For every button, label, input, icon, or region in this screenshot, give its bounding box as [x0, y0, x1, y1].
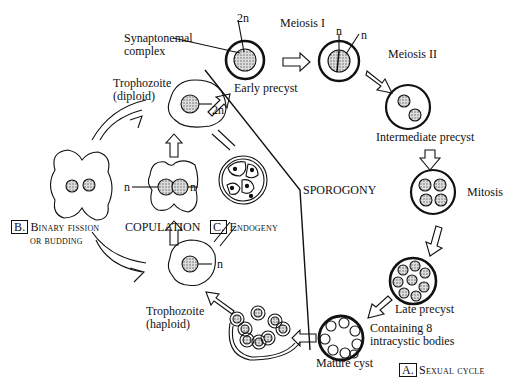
label-intracystic-bodies: intracystic bodies [370, 335, 454, 348]
section-b-name-2: or budding [30, 234, 83, 247]
label-early-precyst: Early precyst [234, 82, 298, 95]
label-troph-diploid-2: (diploid) [113, 90, 155, 103]
arrow-meiosis1 [283, 53, 310, 71]
label-late-precyst: Late precyst [395, 303, 454, 316]
section-a-letter: A. [399, 363, 417, 377]
label-mitosis: Mitosis [467, 186, 503, 199]
label-n-a: n [336, 25, 342, 38]
arrow-meiosis2 [366, 71, 392, 93]
label-copulation: COPULATION [125, 221, 200, 234]
label-2n-troph: 2n [212, 104, 224, 117]
label-n-haploid: n [217, 258, 223, 271]
meiosis1-cyst [319, 34, 359, 81]
section-a-name: Sexual cycle [419, 363, 484, 377]
section-c-endogeny: C.Endogeny [210, 220, 278, 234]
label-mature-cyst: Mature cyst [316, 357, 373, 370]
section-a-sexual-cycle: A.Sexual cycle [399, 363, 484, 377]
section-c-letter: C. [210, 220, 227, 234]
released-intracystic-bodies [229, 306, 300, 360]
late-precyst-cyst [390, 258, 436, 304]
diagram-artwork [0, 0, 517, 385]
section-b-binary-fission: B.Binary fission [11, 220, 99, 234]
haploid-trophozoite-cell [168, 240, 215, 286]
mature-cyst [319, 316, 363, 360]
label-intermediate-precyst: Intermediate precyst [376, 131, 474, 144]
label-meiosis-1: Meiosis I [280, 17, 325, 30]
label-n-left: n [124, 181, 130, 194]
copulation-cell [132, 161, 198, 212]
section-b-letter: B. [11, 220, 28, 234]
section-b-name: Binary fission [30, 220, 99, 234]
arrow-to-mature-cyst [368, 296, 392, 318]
arrow-to-haploid-trophozoite [206, 292, 234, 314]
arrow-diploid-endogeny [212, 130, 235, 150]
intermediate-precyst-cyst [386, 85, 430, 129]
arrow-to-mitosis [420, 150, 440, 170]
label-meiosis-2: Meiosis II [388, 48, 437, 61]
binary-fission-cell [51, 150, 113, 220]
label-n-b: n [361, 29, 367, 42]
arrow-copulation-to-diploid [166, 134, 182, 157]
label-2n-early: 2n [237, 12, 249, 25]
mitosis-cyst [411, 170, 455, 214]
label-n-right: n [190, 181, 196, 194]
label-troph-haploid-2: (haploid) [146, 318, 190, 331]
arrow-to-late-precyst [426, 226, 442, 256]
endogeny-cyst [219, 156, 267, 204]
label-synaptonemal-2: complex [124, 45, 165, 58]
section-c-name: Endogeny [229, 220, 277, 234]
label-sporogony: SPOROGONY [303, 184, 376, 197]
arrow-excystation [292, 330, 316, 346]
life-cycle-diagram: 2n Synaptonemal complex Early precyst Me… [0, 0, 517, 385]
early-precyst-cyst [173, 20, 264, 79]
